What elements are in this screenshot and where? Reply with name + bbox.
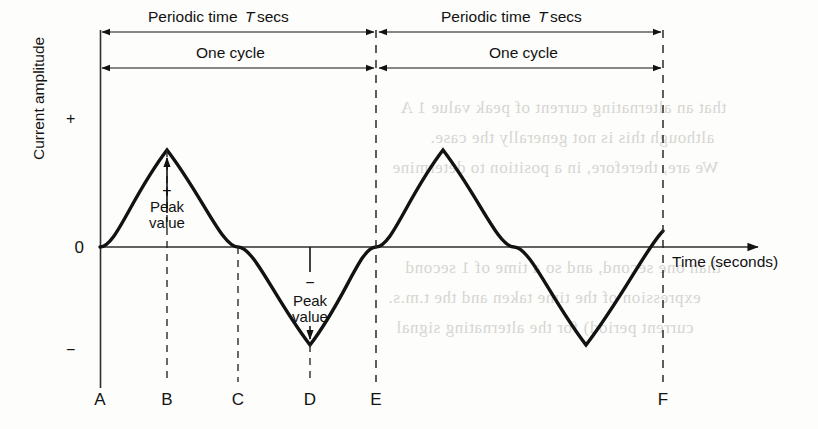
x-axis-title: Time (seconds) [672,253,778,270]
y-axis-title: Current amplitude [30,37,47,160]
point-label-E: E [370,390,381,409]
dimension-label-periodic-prefix: Periodic time [441,8,531,25]
dimension-label-one-cycle: One cycle [196,44,265,61]
peak-negative-sign: − [305,274,314,291]
peak-negative-label-line1: Peak [293,292,328,309]
dimension-label-periodic-suffix: secs [550,8,582,25]
waveform-figure: that an alternating current of peak valu… [0,0,818,429]
dimension-span-periodic-1: Periodic time T secs [102,8,374,32]
peak-positive-sign: + [162,182,171,199]
dimension-span-cycle-2: One cycle [379,44,661,68]
waveform-drawing: Periodic time T secs One cycle Periodic … [0,0,818,429]
peak-positive-label-line1: Peak [150,198,185,215]
dimension-label-periodic-symbol: T [538,8,549,25]
dimension-label-one-cycle: One cycle [489,44,558,61]
y-axis-negative-sign: − [66,341,75,358]
dimension-span-periodic-2: Periodic time T secs [379,8,661,32]
origin-label: 0 [75,238,84,257]
dimension-span-cycle-1: One cycle [102,44,374,68]
point-label-D: D [304,390,316,409]
dimension-label-periodic-symbol: T [245,8,256,25]
y-axis-positive-sign: + [66,110,75,127]
peak-positive-label-line2: value [149,214,185,231]
point-label-A: A [94,390,106,409]
point-label-B: B [161,390,172,409]
point-label-C: C [232,390,244,409]
dimension-label-periodic-prefix: Periodic time [148,8,238,25]
peak-negative-label-line2: value [292,308,328,325]
point-label-F: F [658,390,668,409]
dimension-label-periodic-suffix: secs [257,8,289,25]
